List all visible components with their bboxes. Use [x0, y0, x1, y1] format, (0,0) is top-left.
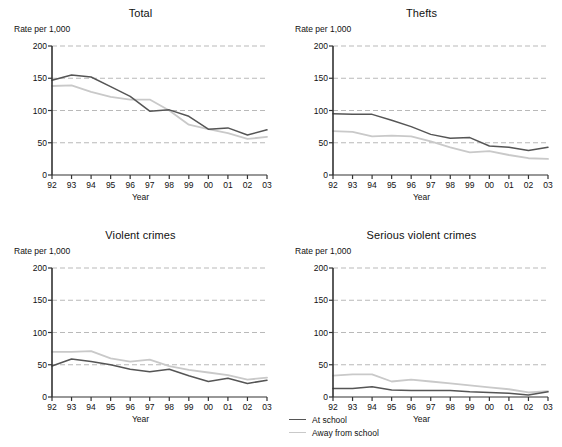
x-tick-label: 00 [485, 403, 494, 412]
legend-label: At school [312, 415, 347, 425]
x-tick-label: 92 [47, 403, 56, 412]
panel-title: Serious violent crimes [281, 229, 562, 241]
x-tick-label: 98 [165, 403, 174, 412]
y-tick-label: 200 [17, 264, 47, 273]
x-tick-label: 99 [184, 403, 193, 412]
x-axis-label: Year [0, 414, 281, 424]
x-tick-label: 96 [406, 181, 415, 190]
x-tick-label: 94 [86, 181, 95, 190]
series-line-away-from-school [52, 351, 267, 379]
x-tick-label: 01 [223, 403, 232, 412]
x-tick-label: 92 [47, 181, 56, 190]
x-tick-label: 95 [387, 403, 396, 412]
y-tick-label: 200 [298, 42, 328, 51]
x-tick-label: 96 [406, 403, 415, 412]
x-tick-label: 00 [485, 181, 494, 190]
y-tick-label: 50 [17, 361, 47, 370]
x-tick-label: 98 [446, 403, 455, 412]
x-tick-label: 02 [524, 181, 533, 190]
y-tick-label: 200 [298, 264, 328, 273]
y-tick-label: 100 [298, 106, 328, 115]
y-tick-label: 100 [298, 328, 328, 337]
chart-panel-total: Total Rate per 1,000 0501001502009293949… [0, 0, 281, 210]
x-tick-label: 94 [367, 403, 376, 412]
panel-title: Thefts [281, 7, 562, 19]
x-tick-label: 01 [504, 403, 513, 412]
x-tick-label: 03 [262, 403, 271, 412]
plot-svg [52, 46, 267, 175]
chart-panel-serious-violent-crimes: Serious violent crimes Rate per 1,000 05… [281, 222, 562, 432]
x-tick-label: 95 [106, 181, 115, 190]
y-axis-label: Rate per 1,000 [295, 24, 351, 34]
x-tick-label: 01 [223, 181, 232, 190]
y-tick-label: 50 [17, 139, 47, 148]
x-tick-label: 96 [125, 403, 134, 412]
y-tick-label: 50 [298, 361, 328, 370]
chart-panel-violent-crimes: Violent crimes Rate per 1,000 0501001502… [0, 222, 281, 432]
figure-legend: At school Away from school [289, 413, 379, 439]
plot-area: 050100150200929394959697989900010203 [52, 268, 267, 397]
x-tick-label: 97 [145, 181, 154, 190]
legend-item-at-school: At school [289, 413, 379, 426]
x-tick-label: 97 [426, 403, 435, 412]
x-tick-label: 93 [348, 181, 357, 190]
x-tick-label: 03 [543, 181, 552, 190]
y-axis-label: Rate per 1,000 [14, 24, 70, 34]
x-tick-label: 99 [184, 181, 193, 190]
x-tick-label: 99 [465, 403, 474, 412]
plot-svg [333, 268, 548, 397]
y-tick-label: 0 [17, 171, 47, 180]
x-tick-label: 95 [106, 403, 115, 412]
x-tick-label: 00 [204, 181, 213, 190]
legend-label: Away from school [312, 428, 379, 438]
x-tick-label: 98 [165, 181, 174, 190]
y-tick-label: 200 [17, 42, 47, 51]
y-tick-label: 0 [298, 393, 328, 402]
plot-svg [52, 268, 267, 397]
y-tick-label: 0 [298, 171, 328, 180]
series-line-away-from-school [333, 374, 548, 392]
x-tick-label: 92 [328, 181, 337, 190]
y-tick-label: 0 [17, 393, 47, 402]
chart-panel-thefts: Thefts Rate per 1,000 050100150200929394… [281, 0, 562, 210]
series-line-away-from-school [333, 131, 548, 159]
y-axis-label: Rate per 1,000 [14, 246, 70, 256]
legend-swatch-away-from-school [289, 432, 306, 433]
x-axis-label: Year [0, 192, 281, 202]
y-tick-label: 150 [17, 74, 47, 83]
panel-title: Violent crimes [0, 229, 281, 241]
x-tick-label: 97 [426, 181, 435, 190]
plot-area: 050100150200929394959697989900010203 [333, 268, 548, 397]
legend-item-away-from-school: Away from school [289, 426, 379, 439]
x-tick-label: 93 [348, 403, 357, 412]
x-tick-label: 99 [465, 181, 474, 190]
x-tick-label: 97 [145, 403, 154, 412]
y-tick-label: 150 [17, 296, 47, 305]
x-tick-label: 95 [387, 181, 396, 190]
x-tick-label: 94 [86, 403, 95, 412]
y-axis-label: Rate per 1,000 [295, 246, 351, 256]
x-axis-label: Year [281, 192, 562, 202]
x-tick-label: 94 [367, 181, 376, 190]
x-tick-label: 03 [543, 403, 552, 412]
x-tick-label: 98 [446, 181, 455, 190]
x-tick-label: 96 [125, 181, 134, 190]
legend-swatch-at-school [289, 419, 306, 420]
y-tick-label: 100 [17, 106, 47, 115]
x-tick-label: 92 [328, 403, 337, 412]
x-tick-label: 93 [67, 181, 76, 190]
x-tick-label: 01 [504, 181, 513, 190]
plot-area: 050100150200929394959697989900010203 [333, 46, 548, 175]
y-tick-label: 150 [298, 296, 328, 305]
plot-area: 050100150200929394959697989900010203 [52, 46, 267, 175]
panel-title: Total [0, 7, 281, 19]
x-tick-label: 02 [243, 403, 252, 412]
x-tick-label: 93 [67, 403, 76, 412]
crime-rate-figure: Total Rate per 1,000 0501001502009293949… [0, 0, 562, 447]
x-tick-label: 00 [204, 403, 213, 412]
x-tick-label: 02 [243, 181, 252, 190]
y-tick-label: 150 [298, 74, 328, 83]
y-tick-label: 100 [17, 328, 47, 337]
plot-svg [333, 46, 548, 175]
x-tick-label: 03 [262, 181, 271, 190]
